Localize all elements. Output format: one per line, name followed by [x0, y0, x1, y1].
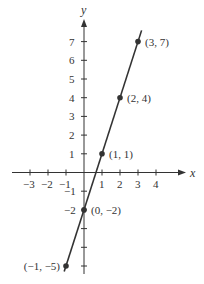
data-points: (−1, −5)(0, −2)(1, 1)(2, 4)(3, 7): [24, 36, 169, 273]
x-tick-label: 4: [153, 178, 159, 190]
data-point: [63, 263, 69, 269]
x-axis-label: x: [189, 166, 196, 180]
x-tick-label: −3: [23, 178, 35, 190]
y-tick-label: 5: [69, 73, 75, 85]
y-axis-arrow-icon: [81, 19, 87, 27]
y-tick-label: −2: [64, 204, 76, 216]
y-tick-label: 2: [69, 129, 75, 141]
y-tick-label: 1: [69, 148, 75, 160]
y-tick-label: 4: [69, 92, 75, 104]
x-axis-arrow-icon: [178, 170, 186, 176]
x-axis: x−3−2−11234: [12, 166, 196, 190]
y-tick-label: 6: [69, 54, 75, 66]
data-point-label: (0, −2): [91, 204, 121, 217]
line-chart: x−3−2−11234 y−2−11234567 (−1, −5)(0, −2)…: [0, 0, 204, 284]
y-axis: y−2−11234567: [64, 3, 87, 274]
x-tick-label: 3: [135, 178, 141, 190]
y-axis-label: y: [80, 3, 87, 17]
y-tick-label: −1: [64, 185, 76, 197]
data-point: [117, 95, 123, 101]
data-point: [135, 39, 141, 45]
data-point: [81, 207, 87, 213]
y-tick-label: 7: [69, 36, 75, 48]
data-point-label: (2, 4): [127, 92, 151, 105]
data-point-label: (1, 1): [109, 148, 133, 161]
data-point-label: (−1, −5): [24, 260, 61, 273]
y-tick-label: 3: [69, 110, 75, 122]
x-tick-label: 1: [99, 178, 105, 190]
data-point: [99, 151, 105, 157]
x-tick-label: 2: [117, 178, 123, 190]
data-point-label: (3, 7): [145, 36, 169, 49]
x-tick-label: −2: [41, 178, 53, 190]
